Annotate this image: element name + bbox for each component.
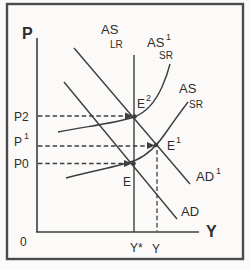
price-p0-label: P0 [14,157,29,171]
price-p2-label: P2 [14,110,29,124]
ad-shifted-label: AD [196,169,214,184]
e1-point [154,143,159,148]
p0-arrowhead-icon [124,160,132,167]
diagram-canvas: P Y 0 P2 P 1 P0 Y* Y AS LR AS 1 SR AS SR… [0,0,251,270]
output-axis-label: Y [206,223,217,240]
e2-sup: 2 [146,93,151,103]
e-point [131,161,136,166]
output-y-label: Y [152,242,160,256]
as-ad-diagram: P Y 0 P2 P 1 P0 Y* Y AS LR AS 1 SR AS SR… [0,0,251,270]
price-p1-label: P [14,135,22,149]
price-axis-label: P [22,25,33,42]
origin-label: 0 [20,235,27,249]
ad-shifted-sup: 1 [216,166,221,176]
as-sr-shifted-curve [58,64,170,132]
e2-point [132,114,137,119]
e2-label: E [137,97,145,111]
as-sr-label: AS [179,81,197,96]
as-lr-sub: LR [110,39,123,50]
as-sr-sub: SR [189,99,203,110]
e1-label: E [167,139,175,153]
as-sr-shifted-label: AS [147,35,165,50]
ad-label: AD [181,204,199,219]
as-sr-shifted-sup: 1 [166,32,171,42]
as-lr-label: AS [101,22,119,37]
e1-sup: 1 [176,135,181,145]
as-sr-shifted-sub: SR [159,50,173,61]
price-p1-sup: 1 [24,131,29,141]
e-label: E [123,175,131,189]
output-ystar-label: Y* [130,241,143,255]
figure-frame [7,4,243,259]
